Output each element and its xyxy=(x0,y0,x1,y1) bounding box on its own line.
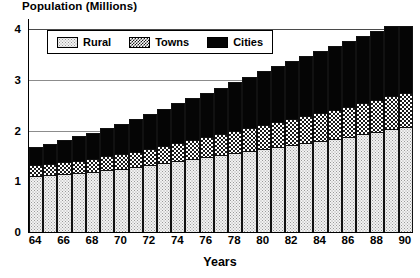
bar-segment-rural xyxy=(272,147,284,232)
bar-segment-rural xyxy=(343,137,355,232)
y-axis: 01234 xyxy=(0,19,24,232)
bar-segment-towns xyxy=(343,107,355,137)
bar-segment-cities xyxy=(272,67,284,122)
bar-82[interactable] xyxy=(285,19,299,232)
bar-85[interactable] xyxy=(328,19,342,232)
bar-segment-cities xyxy=(329,47,341,110)
bar-segment-cities xyxy=(258,72,270,125)
bar-segment-towns xyxy=(186,140,198,159)
bar-stack xyxy=(328,46,342,232)
bar-88[interactable] xyxy=(370,19,384,232)
bar-segment-towns xyxy=(73,161,85,174)
y-tick-label-2: 2 xyxy=(15,125,21,137)
bar-segment-cities xyxy=(400,27,412,93)
bar-segment-towns xyxy=(286,119,298,145)
x-tick-label-68: 68 xyxy=(86,234,99,246)
bar-84[interactable] xyxy=(313,19,327,232)
bar-segment-cities xyxy=(130,120,142,152)
bar-segment-cities xyxy=(158,110,170,147)
bar-segment-cities xyxy=(357,37,369,103)
bar-segment-towns xyxy=(371,100,383,132)
bar-segment-towns xyxy=(130,152,142,167)
legend-label-rural: Rural xyxy=(83,36,111,48)
bar-segment-towns xyxy=(87,159,99,172)
bar-segment-rural xyxy=(357,134,369,232)
bar-stack xyxy=(100,128,114,232)
bar-segment-towns xyxy=(314,113,326,141)
x-tick-label-76: 76 xyxy=(199,234,212,246)
bar-90[interactable] xyxy=(399,19,413,232)
bar-segment-cities xyxy=(58,141,70,162)
bar-segment-cities xyxy=(215,89,227,135)
bar-segment-rural xyxy=(314,141,326,232)
bar-segment-cities xyxy=(371,32,383,100)
bar-segment-cities xyxy=(186,99,198,140)
legend-item-cities[interactable]: Cities xyxy=(207,36,263,48)
bar-stack xyxy=(143,114,157,232)
bar-stack xyxy=(299,56,313,232)
bar-segment-rural xyxy=(329,139,341,232)
bar-stack xyxy=(157,109,171,232)
bar-segment-towns xyxy=(115,154,127,168)
bar-segment-towns xyxy=(243,128,255,151)
bar-64[interactable] xyxy=(29,19,43,232)
bar-segment-rural xyxy=(58,174,70,232)
x-tick-label-64: 64 xyxy=(29,234,42,246)
bar-segment-towns xyxy=(30,165,42,176)
bar-segment-towns xyxy=(172,143,184,161)
y-tick-label-3: 3 xyxy=(15,74,21,86)
x-tick-label-82: 82 xyxy=(285,234,298,246)
legend-swatch-rural xyxy=(57,37,78,48)
bar-87[interactable] xyxy=(356,19,370,232)
bar-segment-rural xyxy=(158,163,170,232)
bar-stack xyxy=(129,119,143,232)
bar-segment-towns xyxy=(158,146,170,163)
bar-segment-rural xyxy=(243,151,255,232)
bar-stack xyxy=(356,36,370,232)
bar-86[interactable] xyxy=(342,19,356,232)
bar-segment-rural xyxy=(371,132,383,232)
bar-83[interactable] xyxy=(299,19,313,232)
bar-segment-rural xyxy=(258,149,270,232)
bar-stack xyxy=(171,103,185,232)
bar-segment-towns xyxy=(357,103,369,134)
bar-stack xyxy=(29,147,43,232)
legend-item-towns[interactable]: Towns xyxy=(129,36,189,48)
bar-segment-cities xyxy=(300,57,312,116)
legend-swatch-towns xyxy=(129,37,150,48)
bar-segment-rural xyxy=(385,129,397,232)
chart-legend: RuralTownsCities xyxy=(47,30,273,54)
bar-stack xyxy=(313,51,327,232)
bar-segment-rural xyxy=(286,145,298,232)
bar-segment-cities xyxy=(201,94,213,138)
x-axis-title: Years xyxy=(28,255,412,269)
bar-stack xyxy=(86,133,100,232)
y-tick-label-0: 0 xyxy=(15,226,21,238)
bar-stack xyxy=(285,61,299,232)
bar-segment-rural xyxy=(172,161,184,232)
bar-segment-rural xyxy=(186,159,198,232)
bar-segment-cities xyxy=(286,62,298,119)
x-tick-label-66: 66 xyxy=(57,234,70,246)
legend-item-rural[interactable]: Rural xyxy=(57,36,111,48)
bar-segment-rural xyxy=(44,175,56,232)
bar-stack xyxy=(271,66,285,232)
bar-segment-cities xyxy=(44,145,56,164)
bar-segment-rural xyxy=(144,165,156,232)
bar-stack xyxy=(72,136,86,232)
bar-segment-rural xyxy=(115,169,127,232)
legend-label-cities: Cities xyxy=(233,36,263,48)
bar-segment-rural xyxy=(101,170,113,232)
bar-segment-towns xyxy=(385,96,397,129)
bar-89[interactable] xyxy=(384,19,398,232)
bar-segment-towns xyxy=(229,131,241,153)
bar-segment-cities xyxy=(343,42,355,107)
bar-stack xyxy=(228,82,242,232)
bar-segment-cities xyxy=(73,137,85,160)
bar-segment-cities xyxy=(229,83,241,131)
bar-stack xyxy=(342,41,356,232)
bar-segment-rural xyxy=(229,153,241,232)
bar-stack xyxy=(384,26,398,232)
bar-stack xyxy=(43,144,57,232)
bar-segment-cities xyxy=(30,148,42,165)
